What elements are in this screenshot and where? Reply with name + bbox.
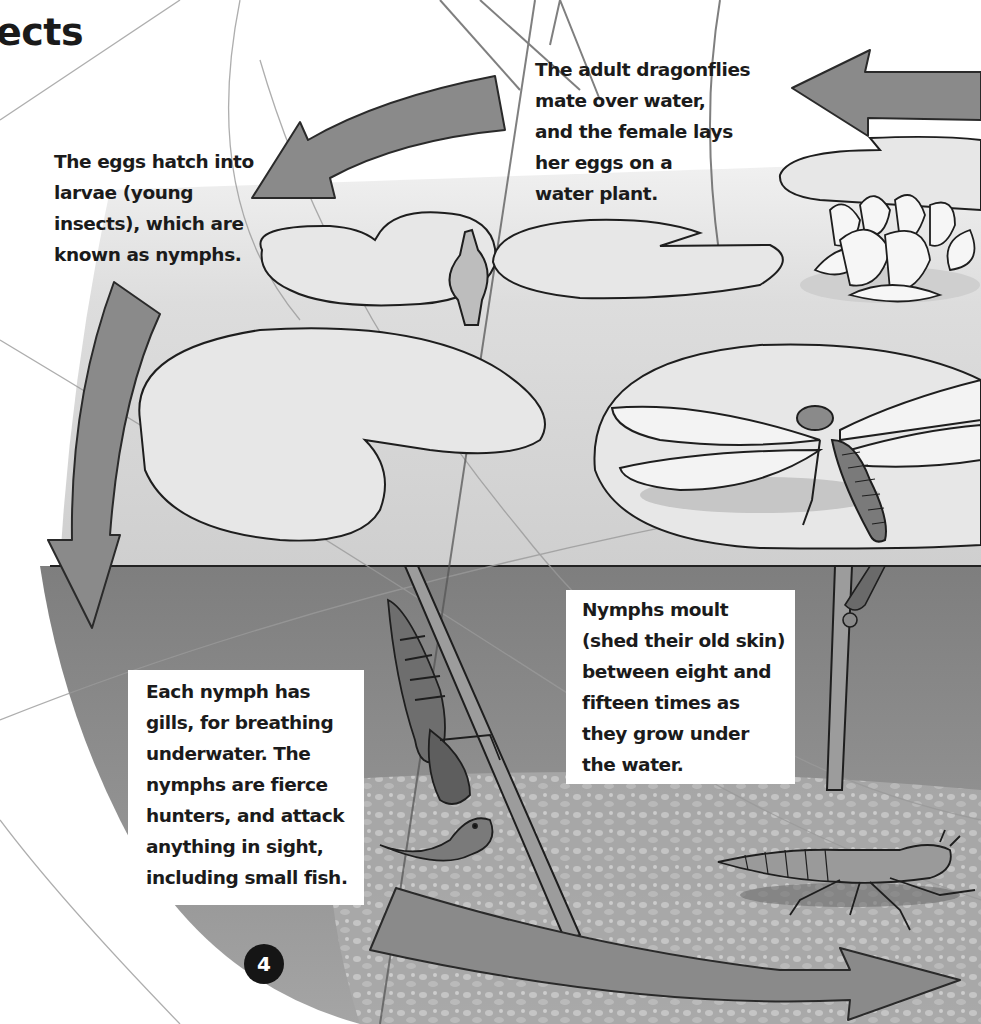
page-heading: ects: [0, 10, 83, 54]
page-number-badge: 4: [244, 944, 284, 984]
arrow-top-right: [792, 50, 981, 136]
caption-nymphs-moult: Nymphs moult (shed their old skin) betwe…: [566, 590, 795, 784]
caption-each-nymph: Each nymph has gills, for breathing unde…: [128, 670, 364, 905]
book-page: ects The eggs hatch into larvae (young i…: [0, 0, 981, 1024]
caption-adult-dragonflies: The adult dragonflies mate over water, a…: [535, 54, 750, 209]
caption-eggs-hatch: The eggs hatch into larvae (young insect…: [54, 146, 254, 270]
